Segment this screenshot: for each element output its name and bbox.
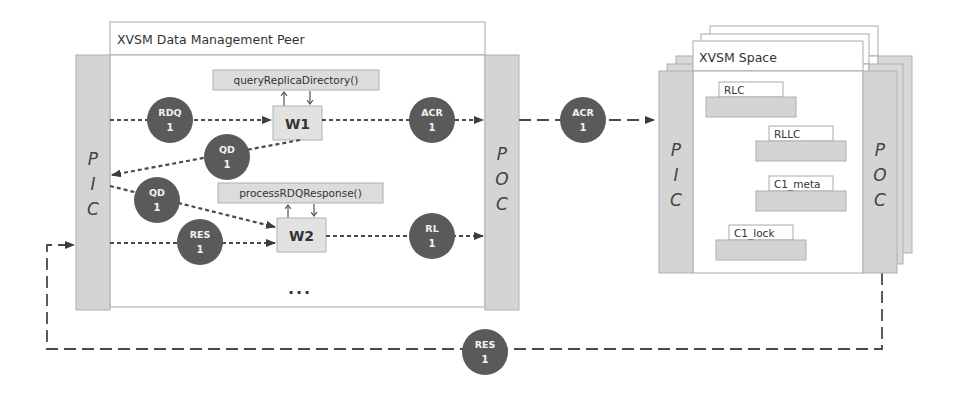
container-label: RLLC (774, 128, 800, 140)
peer-pic-letter: I (90, 174, 95, 194)
svg-text:1: 1 (482, 354, 489, 365)
peer-title: XVSM Data Management Peer (117, 32, 305, 47)
space-title: XVSM Space (699, 50, 777, 65)
svg-text:ACR: ACR (572, 107, 594, 118)
peer-poc-letter: P (497, 144, 508, 164)
space-pic-letter: P (671, 140, 682, 160)
space-poc-letter: C (874, 190, 886, 210)
svg-text:1: 1 (580, 122, 587, 133)
svg-text:1: 1 (167, 122, 174, 133)
data-management-peer: XVSM Data Management Peer P I C P O C qu… (76, 22, 519, 310)
svg-text:1: 1 (429, 238, 436, 249)
svg-text:1: 1 (224, 159, 231, 170)
svg-text:1: 1 (197, 244, 204, 255)
space-layer-front: XVSM Space P I C P O C RLC RLLC (659, 41, 897, 273)
peer-pic-letter: C (87, 199, 99, 219)
svg-text:QD: QD (149, 187, 165, 198)
w2-label: W2 (289, 228, 314, 244)
token-rl-out[interactable]: RL 1 (409, 213, 455, 259)
token-acr-transfer[interactable]: ACR 1 (560, 97, 606, 143)
more-workers-ellipsis: ... (288, 279, 312, 298)
container-label: RLC (724, 84, 744, 96)
xvsm-space-stack: XVSM Space P I C P O C RLC RLLC (659, 26, 912, 273)
svg-text:RDQ: RDQ (158, 107, 181, 118)
svg-text:1: 1 (154, 202, 161, 213)
w1-label: W1 (285, 116, 310, 132)
svg-text:RL: RL (425, 223, 438, 234)
token-qd-in[interactable]: QD 1 (134, 177, 180, 223)
peer-pic-letter: P (88, 149, 99, 169)
diagram-canvas: XVSM Data Management Peer P I C P O C qu… (0, 0, 954, 401)
w1-function-label: queryReplicaDirectory() (234, 74, 359, 86)
peer-poc-letter: O (495, 169, 508, 189)
container-label: C1_meta (774, 178, 821, 191)
svg-text:1: 1 (429, 122, 436, 133)
svg-text:RES: RES (190, 229, 211, 240)
space-pic-letter: I (673, 165, 678, 185)
w2-function-label: processRDQResponse() (239, 187, 362, 199)
token-acr-out[interactable]: ACR 1 (409, 97, 455, 143)
container-rlc[interactable]: RLC (706, 82, 796, 117)
token-res-return[interactable]: RES 1 (462, 329, 508, 375)
token-res-in[interactable]: RES 1 (177, 219, 223, 265)
svg-text:RES: RES (475, 339, 496, 350)
svg-text:QD: QD (219, 144, 235, 155)
space-poc-letter: O (873, 165, 886, 185)
space-pic-letter: C (670, 190, 682, 210)
token-rdq-in[interactable]: RDQ 1 (147, 97, 193, 143)
svg-text:ACR: ACR (421, 107, 443, 118)
container-label: C1_lock (734, 227, 775, 240)
container-c1-lock[interactable]: C1_lock (716, 225, 806, 260)
token-qd-out[interactable]: QD 1 (204, 134, 250, 180)
container-rllc[interactable]: RLLC (756, 126, 846, 161)
space-poc-letter: P (875, 140, 886, 160)
peer-poc-letter: C (496, 194, 508, 214)
container-c1-meta[interactable]: C1_meta (756, 176, 846, 211)
